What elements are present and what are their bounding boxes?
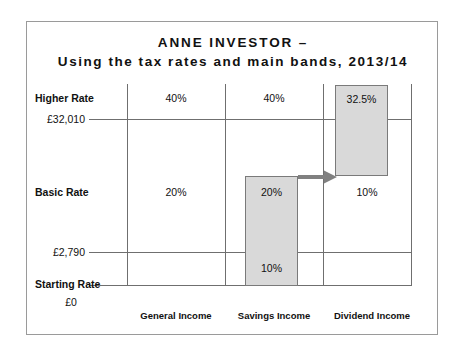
rate-general-higher: 40% bbox=[127, 92, 225, 104]
rate-savings-higher: 40% bbox=[225, 92, 323, 104]
rate-dividend-higher: 32.5% bbox=[335, 93, 388, 105]
band-label-basic-rate: Basic Rate bbox=[35, 186, 89, 198]
column-divider-4 bbox=[411, 84, 412, 286]
band-label-higher-rate: Higher Rate bbox=[35, 92, 94, 104]
rate-savings-starting: 10% bbox=[245, 262, 298, 274]
threshold-label-zero: £0 bbox=[27, 296, 115, 308]
column-divider-3 bbox=[323, 84, 324, 286]
rate-dividend-basic: 10% bbox=[323, 186, 411, 198]
rate-savings-basic: 20% bbox=[245, 186, 298, 198]
rate-general-basic: 20% bbox=[127, 186, 225, 198]
threshold-label-2790: £2,790 bbox=[27, 246, 85, 258]
band-label-starting-rate: Starting Rate bbox=[35, 278, 100, 290]
plot-area: Higher Rate Basic Rate Starting Rate £32… bbox=[27, 22, 439, 336]
column-label-dividend-income: Dividend Income bbox=[323, 310, 421, 321]
transfer-arrow-icon bbox=[298, 169, 338, 185]
column-label-general-income: General Income bbox=[127, 310, 225, 321]
threshold-label-32010: £32,010 bbox=[27, 113, 85, 125]
column-divider-1 bbox=[127, 84, 128, 286]
chart-frame: ANNE INVESTOR – Using the tax rates and … bbox=[26, 21, 438, 335]
column-divider-2 bbox=[225, 84, 226, 286]
column-label-savings-income: Savings Income bbox=[225, 310, 323, 321]
